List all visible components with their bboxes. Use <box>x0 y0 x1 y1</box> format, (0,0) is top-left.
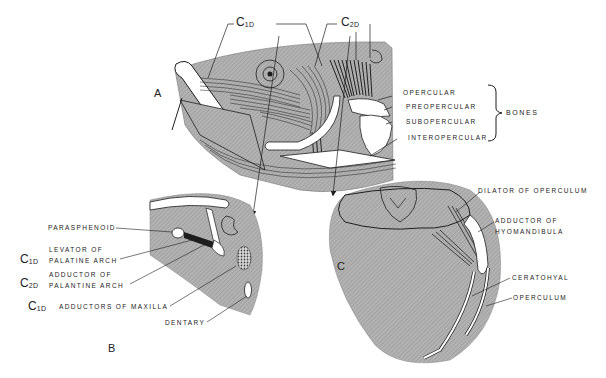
label-bones: BONES <box>506 109 539 116</box>
label-adductor-palatine-line2: PALANTINE ARCH <box>49 283 124 290</box>
panel-label-b: B <box>108 343 115 354</box>
label-interopercular: INTEROPERCULAR <box>408 135 488 142</box>
label-dentary: DENTARY <box>165 320 205 327</box>
panel-label-c: C <box>337 261 345 272</box>
panel-label-a: A <box>154 88 161 99</box>
label-parasphenoid: PARASPHENOID <box>48 225 116 232</box>
label-opercular: OPERCULAR <box>403 90 456 97</box>
label-levator-line1: LEVATOR OF <box>49 247 103 254</box>
bones-brace <box>488 85 502 141</box>
code-c1d-top: C1D <box>236 16 255 28</box>
label-subopercular: SUBOPERCULAR <box>406 119 477 126</box>
code-c2d-top: C2D <box>341 16 360 28</box>
label-adductor-palatine-line1: ADDUCTOR OF <box>49 272 112 279</box>
code-c2d-adductor: C2D <box>20 277 39 289</box>
code-c1d-levator: C1D <box>20 253 39 265</box>
label-preopercular: PREOPERCULAR <box>406 104 477 111</box>
label-adductors-maxilla: ADDUCTORS OF MAXILLA <box>59 304 168 311</box>
label-ceratohyal: CERATOHYAL <box>512 275 569 282</box>
label-adductor-hyomandibula-line2: HYOMANDIBULA <box>495 229 564 236</box>
label-operculum: OPERCULUM <box>513 295 567 302</box>
label-levator-line2: PALATINE ARCH <box>49 258 118 265</box>
code-c1d-maxilla: C1D <box>28 300 47 312</box>
panel-c-section <box>329 181 500 363</box>
label-adductor-hyomandibula-line1: ADDUCTOR OF <box>495 218 558 225</box>
label-dilator-operculum: DILATOR OF OPERCULUM <box>478 188 588 195</box>
panel-a-head <box>172 42 396 192</box>
